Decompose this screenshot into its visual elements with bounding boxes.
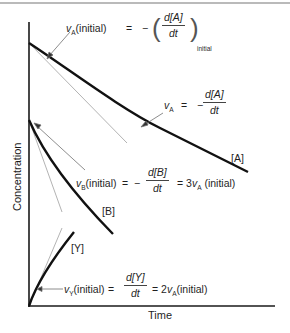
annotation-vA-initial: vA(initial) <box>66 23 107 37</box>
label-A: [A] <box>231 153 244 164</box>
minus-sign: − <box>134 178 140 189</box>
denominator: dt <box>162 26 185 39</box>
suffix: (initial) <box>86 177 117 189</box>
paren-close: ) <box>190 15 199 41</box>
paren-open: ( <box>152 15 161 41</box>
fraction-dB-dt: d[B]dt <box>146 167 169 193</box>
x-axis-label: Time <box>148 310 172 321</box>
suffix: (initial) <box>176 283 207 295</box>
equals-sign: = <box>181 100 187 111</box>
minus-sign: − <box>142 23 148 34</box>
annotation-vA: vA <box>164 100 174 114</box>
annotation-vB-initial: vB(initial) <box>76 178 117 192</box>
equals-sign: = <box>108 284 114 295</box>
coef: = 2 <box>152 283 167 295</box>
label-Y: [Y] <box>71 243 84 254</box>
annotation-2vA-initial: = 2vA(initial) <box>152 284 207 298</box>
coef: = 3 <box>177 177 192 189</box>
subscript: A <box>197 184 201 191</box>
numerator: d[B] <box>146 167 169 181</box>
subscript: A <box>169 106 173 113</box>
initial-subscript: initial <box>197 46 212 53</box>
suffix: (initial) <box>204 177 235 189</box>
label-B: [B] <box>102 206 115 217</box>
equals-sign: = <box>126 23 132 34</box>
tangent-A-initial <box>29 43 127 143</box>
suffix: (initial) <box>76 22 107 34</box>
numerator: d[A] <box>203 89 226 103</box>
fraction-dY-dt: d[Y]dt <box>124 272 147 298</box>
denominator: dt <box>146 181 169 194</box>
denominator: dt <box>203 103 226 116</box>
denominator: dt <box>124 286 147 299</box>
suffix: (initial) <box>74 283 105 295</box>
annotation-3vA-initial: = 3vA (initial) <box>177 178 235 192</box>
numerator: d[A] <box>162 12 185 26</box>
fraction-dA-dt: d[A]dt <box>203 89 226 115</box>
arrowhead-icon <box>34 123 41 129</box>
y-axis-label: Concentration <box>11 143 23 212</box>
equals-sign: = <box>122 178 128 189</box>
fraction-dA-dt-initial: d[A]dt <box>162 12 185 38</box>
annotation-vY-initial: vY(initial) <box>64 284 105 298</box>
numerator: d[Y] <box>124 272 147 286</box>
